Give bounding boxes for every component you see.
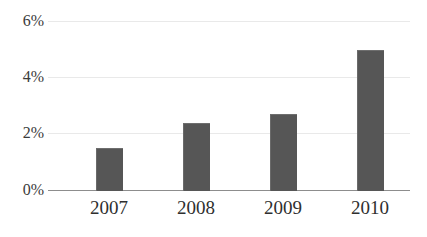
x-tick-label-2007: 2007 bbox=[64, 198, 154, 219]
bar-2007 bbox=[96, 148, 123, 191]
x-tick-text-2009: 2009 bbox=[264, 197, 302, 218]
y-tick-text-6: 6% bbox=[23, 12, 44, 29]
y-tick-text-4: 4% bbox=[23, 68, 44, 85]
y-tick-label-6-percent: 6% bbox=[0, 13, 44, 29]
x-tick-text-2007: 2007 bbox=[90, 197, 128, 218]
bar-chart: 6% 4% 2% 0% 2007 2008 2009 2010 bbox=[0, 0, 427, 237]
y-tick-text-0: 0% bbox=[23, 181, 44, 198]
y-tick-label-4-percent: 4% bbox=[0, 69, 44, 85]
x-tick-text-2008: 2008 bbox=[177, 197, 215, 218]
bar-2010 bbox=[357, 50, 384, 191]
x-tick-text-2010: 2010 bbox=[351, 197, 389, 218]
bar-2009 bbox=[270, 114, 297, 191]
x-tick-label-2009: 2009 bbox=[238, 198, 328, 219]
y-tick-label-2-percent: 2% bbox=[0, 125, 44, 141]
gridline-6-percent bbox=[48, 21, 410, 22]
plot-area: 6% 4% 2% 0% 2007 2008 2009 2010 bbox=[0, 0, 427, 237]
gridline-2-percent bbox=[48, 133, 410, 134]
x-tick-label-2008: 2008 bbox=[151, 198, 241, 219]
y-tick-label-0-percent: 0% bbox=[0, 182, 44, 198]
gridline-4-percent bbox=[48, 77, 410, 78]
y-tick-text-2: 2% bbox=[23, 124, 44, 141]
x-tick-label-2010: 2010 bbox=[325, 198, 415, 219]
bar-2008 bbox=[183, 123, 210, 191]
